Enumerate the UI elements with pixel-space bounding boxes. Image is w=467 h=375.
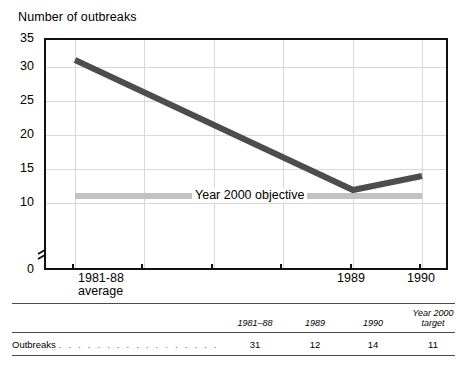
table-header-blank — [12, 304, 224, 332]
outbreaks-table: 1981–88 1989 1990 Year 2000 target — [12, 304, 464, 332]
plot-area: Year 2000 objective — [44, 38, 448, 270]
x-axis-tick-mark-1 — [72, 264, 74, 270]
y-axis-tick-label-0: 0 — [8, 263, 34, 275]
table-header-year-2000-target-line1: Year 2000 — [402, 308, 464, 318]
table-header-year-2000-target-line2: target — [402, 318, 464, 328]
table-header-1989-line2: 1989 — [286, 318, 344, 328]
y-axis-tick-label-20: 20 — [8, 128, 34, 140]
data-table: 1981–88 1989 1990 Year 2000 target — [12, 303, 455, 356]
y-axis-tick-label-30: 30 — [8, 60, 34, 72]
table-header-1981-88: 1981–88 — [224, 304, 286, 332]
chart-title: Number of outbreaks — [18, 10, 137, 24]
x-axis-tick-mark-3 — [211, 264, 213, 270]
table-cell-1989: 12 — [286, 333, 344, 355]
x-axis-tick-label-1981-88-line2: average — [78, 285, 124, 298]
objective-annotation-label: Year 2000 objective — [192, 188, 307, 202]
y-axis-tick-label-15: 15 — [8, 162, 34, 174]
table-rule-bottom — [12, 355, 455, 356]
table-cell-1981-88: 31 — [224, 333, 286, 355]
x-axis-tick-mark-6 — [419, 264, 421, 270]
x-axis-tick-mark-5 — [350, 264, 352, 270]
y-axis-tick-label-25: 25 — [8, 94, 34, 106]
x-axis-tick-label-1989: 1989 — [337, 272, 365, 285]
y-axis-tick-label-35: 35 — [8, 32, 34, 44]
table-cell-year-2000-target: 11 — [402, 333, 464, 355]
outbreaks-line — [75, 60, 422, 190]
table-row-label-cell: Outbreaks . . . . . . . . . . . . . . . … — [12, 333, 224, 355]
y-axis-tick-label-10: 10 — [8, 196, 34, 208]
table-header-row: 1981–88 1989 1990 Year 2000 target — [12, 304, 464, 332]
x-axis-tick-label-1990: 1990 — [407, 272, 435, 285]
outbreaks-table-body: Outbreaks . . . . . . . . . . . . . . . … — [12, 333, 464, 355]
table-header-1990-line2: 1990 — [344, 318, 402, 328]
x-axis-tick-mark-2 — [141, 264, 143, 270]
chart-series-svg — [46, 40, 450, 272]
chart-figure: Number of outbreaks 35 30 25 20 15 10 0 — [0, 0, 467, 300]
table-row-label: Outbreaks — [12, 339, 59, 350]
table-header-1990: 1990 — [344, 304, 402, 332]
table-cell-1990: 14 — [344, 333, 402, 355]
table-header-year-2000-target: Year 2000 target — [402, 304, 464, 332]
table-header-1981-88-line2: 1981–88 — [224, 318, 286, 328]
table-row: Outbreaks . . . . . . . . . . . . . . . … — [12, 333, 464, 355]
table-header-1989: 1989 — [286, 304, 344, 332]
dot-leader: . . . . . . . . . . . . . . . . . . . . … — [59, 339, 224, 350]
x-axis-tick-label-1981-88: 1981-88 average — [78, 272, 124, 298]
x-axis-tick-mark-4 — [280, 264, 282, 270]
